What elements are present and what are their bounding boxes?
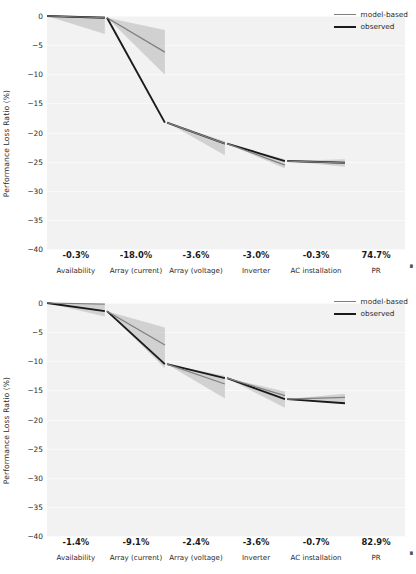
y-axis-tick-label: −25	[27, 444, 43, 453]
category-name-label: AC installation	[290, 265, 341, 277]
y-axis-label-bottom: Performance Loss Ratio (%)	[0, 287, 13, 574]
y-axis-tick-label: 0	[38, 299, 43, 308]
series-overlay	[47, 16, 405, 249]
x-axis-category-6: 82.9%PR	[347, 536, 405, 574]
category-name-label: PR	[371, 265, 380, 277]
category-name-label: Array (voltage)	[169, 552, 222, 564]
x-axis-category-5: -0.7%AC installation	[287, 536, 345, 574]
plot-area-bottom: 0−5−10−15−20−25−30−35−40	[47, 303, 405, 536]
category-value-label: -3.6%	[183, 249, 210, 262]
chart-panel-bottom: Performance Loss Ratio (%) 0−5−10−15−20−…	[0, 287, 416, 574]
legend-bottom: model-based observed	[334, 297, 408, 318]
x-axis-category-6: 74.7%PR	[347, 249, 405, 287]
category-value-label: -3.6%	[243, 536, 270, 549]
category-name-label: Inverter	[242, 552, 270, 564]
legend-label-observed: observed	[361, 309, 395, 318]
legend-entry-model-based: model-based	[334, 10, 408, 19]
axis-edge-marker-icon: ▪	[410, 549, 414, 557]
y-axis-tick-label: −15	[27, 99, 43, 108]
category-name-label: Array (current)	[110, 265, 163, 277]
plot-area-top: 0−5−10−15−20−25−30−35−40	[47, 16, 405, 249]
legend-swatch-observed	[334, 313, 356, 315]
series-overlay	[47, 303, 405, 536]
legend-swatch-observed	[334, 26, 356, 28]
legend-swatch-model-based	[334, 301, 356, 302]
x-axis-category-2: -18.0%Array (current)	[107, 249, 165, 287]
series-line-model-based	[167, 123, 225, 144]
legend-entry-observed: observed	[334, 22, 408, 31]
category-value-label: 82.9%	[362, 536, 391, 549]
category-value-label: -1.4%	[63, 536, 90, 549]
y-axis-tick-label: −40	[27, 532, 43, 541]
legend-entry-model-based: model-based	[334, 297, 408, 306]
category-value-label: -3.0%	[243, 249, 270, 262]
y-axis-tick-label: −20	[27, 415, 43, 424]
y-axis-tick-label: −25	[27, 157, 43, 166]
category-name-label: Inverter	[242, 265, 270, 277]
category-name-label: Availability	[57, 265, 96, 277]
axis-edge-marker-icon: ▪	[410, 262, 414, 270]
legend-swatch-model-based	[334, 14, 356, 15]
x-axis-bottom: -1.4%Availability-9.1%Array (current)-2.…	[47, 536, 405, 574]
x-axis-category-3: -3.6%Array (voltage)	[167, 249, 225, 287]
y-axis-tick-label: −40	[27, 245, 43, 254]
y-axis-tick-label: −15	[27, 386, 43, 395]
category-name-label: PR	[371, 552, 380, 564]
chart-panel-top: Performance Loss Ratio (%) 0−5−10−15−20−…	[0, 0, 416, 287]
legend-label-model-based: model-based	[361, 10, 408, 19]
x-axis-category-5: -0.3%AC installation	[287, 249, 345, 287]
y-axis-tick-label: −5	[32, 328, 43, 337]
uncertainty-band	[167, 123, 225, 156]
x-axis-category-1: -1.4%Availability	[47, 536, 105, 574]
legend-entry-observed: observed	[334, 309, 408, 318]
x-axis-category-2: -9.1%Array (current)	[107, 536, 165, 574]
category-name-label: AC installation	[290, 552, 341, 564]
x-axis-category-3: -2.4%Array (voltage)	[167, 536, 225, 574]
category-value-label: 74.7%	[362, 249, 391, 262]
category-value-label: -0.3%	[303, 249, 330, 262]
y-axis-tick-label: −30	[27, 186, 43, 195]
category-value-label: -18.0%	[120, 249, 153, 262]
y-axis-label-top: Performance Loss Ratio (%)	[0, 0, 13, 287]
category-name-label: Array (voltage)	[169, 265, 222, 277]
x-axis-category-4: -3.0%Inverter	[227, 249, 285, 287]
category-name-label: Availability	[57, 552, 96, 564]
y-axis-tick-label: −10	[27, 357, 43, 366]
legend-label-observed: observed	[361, 22, 395, 31]
category-value-label: -9.1%	[123, 536, 150, 549]
category-value-label: -0.7%	[303, 536, 330, 549]
uncertainty-band	[47, 16, 105, 34]
y-axis-tick-label: −10	[27, 70, 43, 79]
y-axis-tick-label: −30	[27, 473, 43, 482]
category-name-label: Array (current)	[110, 552, 163, 564]
legend-top: model-based observed	[334, 10, 408, 31]
legend-label-model-based: model-based	[361, 297, 408, 306]
x-axis-top: -0.3%Availability-18.0%Array (current)-3…	[47, 249, 405, 287]
y-axis-tick-label: 0	[38, 12, 43, 21]
y-axis-tick-label: −35	[27, 215, 43, 224]
category-value-label: -2.4%	[183, 536, 210, 549]
x-axis-category-4: -3.6%Inverter	[227, 536, 285, 574]
series-line-model-based	[227, 144, 285, 166]
y-axis-tick-label: −20	[27, 128, 43, 137]
y-axis-tick-label: −35	[27, 502, 43, 511]
figure-two-waterfall-charts: Performance Loss Ratio (%) 0−5−10−15−20−…	[0, 0, 416, 574]
x-axis-category-1: -0.3%Availability	[47, 249, 105, 287]
category-value-label: -0.3%	[63, 249, 90, 262]
y-axis-tick-label: −5	[32, 41, 43, 50]
